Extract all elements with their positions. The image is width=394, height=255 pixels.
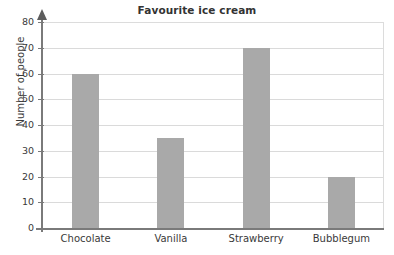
y-axis-tick xyxy=(38,22,44,23)
y-axis-tick-label: 40 xyxy=(0,120,34,130)
y-axis-tick xyxy=(38,228,44,229)
y-axis-tick xyxy=(38,151,44,152)
y-axis-tick xyxy=(38,125,44,126)
y-axis-arrow-icon xyxy=(37,9,47,20)
y-axis-tick xyxy=(38,48,44,49)
plot-area xyxy=(43,22,384,228)
bar-chart-figure: Favourite ice cream Number of people 010… xyxy=(0,0,394,255)
gridline xyxy=(43,48,383,49)
gridline xyxy=(43,22,383,23)
y-axis-tick xyxy=(38,74,44,75)
y-axis-tick-label: 10 xyxy=(0,197,34,207)
chart-title: Favourite ice cream xyxy=(0,4,394,16)
y-axis-tick-label: 0 xyxy=(0,223,34,233)
y-axis-tick-label: 70 xyxy=(0,43,34,53)
y-axis-tick-label: 20 xyxy=(0,172,34,182)
y-axis-tick-label: 30 xyxy=(0,146,34,156)
bar xyxy=(243,48,270,228)
x-axis-tick-label: Bubblegum xyxy=(281,233,394,244)
bar xyxy=(72,74,99,229)
y-axis-tick-label: 80 xyxy=(0,17,34,27)
x-axis-line xyxy=(36,228,384,230)
bar xyxy=(157,138,184,228)
bar xyxy=(328,177,355,229)
y-axis-tick xyxy=(38,99,44,100)
y-axis-tick xyxy=(38,202,44,203)
y-axis-tick xyxy=(38,177,44,178)
y-axis-tick-label: 50 xyxy=(0,94,34,104)
y-axis-label: Number of people xyxy=(15,12,26,152)
y-axis-tick-label: 60 xyxy=(0,69,34,79)
